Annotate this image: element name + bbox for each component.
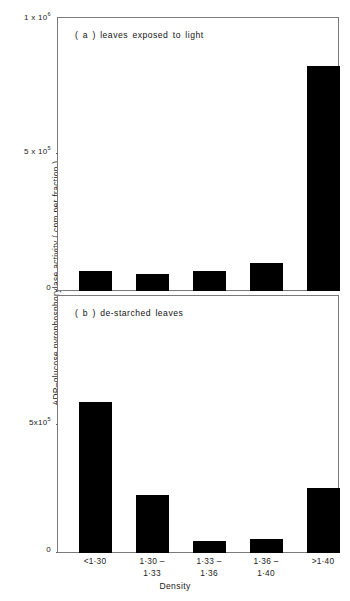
x-tick-label-4-line-0: >1·40 bbox=[288, 556, 350, 568]
panel-a-bars bbox=[57, 17, 339, 291]
bar-a-2 bbox=[193, 271, 226, 291]
bar-a-0 bbox=[79, 271, 112, 291]
y-tick-label-a-5e5: 5 x 105 bbox=[6, 147, 51, 156]
bar-b-0 bbox=[79, 402, 112, 553]
y-tick-label-b-5e5-exp: 5 bbox=[48, 416, 51, 422]
y-tick-label-a-1e6: 1 x 106 bbox=[6, 13, 51, 22]
y-tick-label-a-5e5-text: 5 x 10 bbox=[24, 147, 48, 156]
panel-b-bars bbox=[57, 295, 339, 553]
figure-container: ADP–glucose pyrophosphorylase activity (… bbox=[0, 0, 350, 601]
y-tick-label-a-1e6-exp: 6 bbox=[48, 11, 51, 17]
bar-b-1 bbox=[136, 495, 169, 553]
bar-a-4 bbox=[307, 66, 340, 291]
x-axis-title: Density bbox=[0, 581, 350, 591]
panel-b: ( b ) de-starched leaves bbox=[57, 295, 339, 553]
y-tick-label-b-5e5-text: 5x10 bbox=[29, 418, 48, 427]
bar-b-3 bbox=[250, 539, 283, 553]
y-tick-label-a-0: 0 bbox=[6, 283, 51, 292]
panel-a: ( a ) leaves exposed to light bbox=[57, 17, 339, 291]
bar-a-1 bbox=[136, 274, 169, 291]
y-tick-label-a-5e5-exp: 5 bbox=[48, 145, 51, 151]
bar-a-3 bbox=[250, 263, 283, 291]
bar-b-4 bbox=[307, 488, 340, 553]
y-tick-label-a-1e6-text: 1 x 10 bbox=[24, 13, 48, 22]
bar-b-2 bbox=[193, 541, 226, 553]
x-tick-label-3-line-1: 1·40 bbox=[231, 568, 301, 580]
y-tick-label-b-5e5: 5x105 bbox=[6, 418, 51, 427]
y-tick-label-b-0: 0 bbox=[6, 545, 51, 554]
x-tick-label-4: >1·40 bbox=[288, 556, 350, 568]
